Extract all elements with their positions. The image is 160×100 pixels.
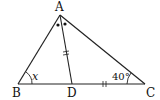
vertex-label-c: C [146,86,155,100]
angle-mark-dot-left [56,23,59,26]
side-ab [18,15,60,84]
triangle-diagram: A B D C x 40° [0,0,160,100]
side-ac [60,15,145,84]
vertex-label-b: B [12,86,21,100]
segment-ad [60,15,72,84]
vertex-label-d: D [67,86,77,100]
equal-mark-ad [63,51,69,55]
vertex-label-a: A [54,0,64,14]
angle-mark-dot-right [63,22,66,25]
angle-label-c: 40° [112,71,130,82]
angle-label-b: x [32,70,39,83]
